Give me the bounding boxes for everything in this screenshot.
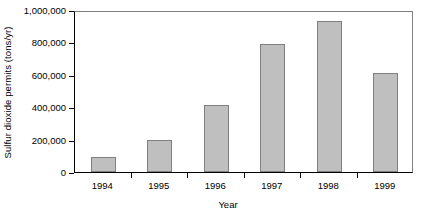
x-axis-title: Year (0, 199, 432, 210)
y-axis-tick-mark (69, 43, 74, 44)
x-axis-tick-mark (187, 173, 188, 178)
x-axis-tick-label: 1998 (318, 181, 339, 191)
x-axis-tick-mark (131, 173, 132, 178)
y-axis-tick-labels: 0200,000400,000600,000800,0001,000,000 (12, 0, 66, 220)
y-axis-tick-mark (69, 108, 74, 109)
y-axis-tick-mark (69, 11, 74, 12)
x-axis-tick-label: 1999 (374, 181, 395, 191)
bar (204, 105, 229, 172)
bar (373, 73, 398, 172)
y-axis-tick-mark (69, 76, 74, 77)
bar (260, 44, 285, 172)
y-axis-tick-label: 800,000 (32, 39, 66, 49)
bar (91, 157, 116, 172)
x-axis-title-text: Year (218, 199, 237, 210)
x-axis-tick-label: 1994 (92, 181, 113, 191)
bar-chart: Sulfur dioxide permits (tons/yr) 0200,00… (0, 0, 432, 220)
y-axis-tick-mark (69, 173, 74, 174)
x-axis-tick-mark (357, 173, 358, 178)
y-axis-tick-label: 0 (61, 168, 66, 178)
y-axis-tick-label: 600,000 (32, 71, 66, 81)
x-axis-tick-label: 1995 (148, 181, 169, 191)
y-axis-title-text: Sulfur dioxide permits (tons/yr) (2, 26, 13, 158)
y-axis-tick-label: 1,000,000 (24, 6, 66, 16)
plot-area (74, 11, 413, 173)
y-axis-tick-mark (69, 141, 74, 142)
x-axis-tick-label: 1996 (205, 181, 226, 191)
bar (317, 21, 342, 172)
x-axis-tick-mark (244, 173, 245, 178)
bar (147, 140, 172, 172)
y-axis-tick-label: 400,000 (32, 103, 66, 113)
x-axis-tick-label: 1997 (261, 181, 282, 191)
y-axis-tick-label: 200,000 (32, 136, 66, 146)
x-axis-tick-mark (300, 173, 301, 178)
